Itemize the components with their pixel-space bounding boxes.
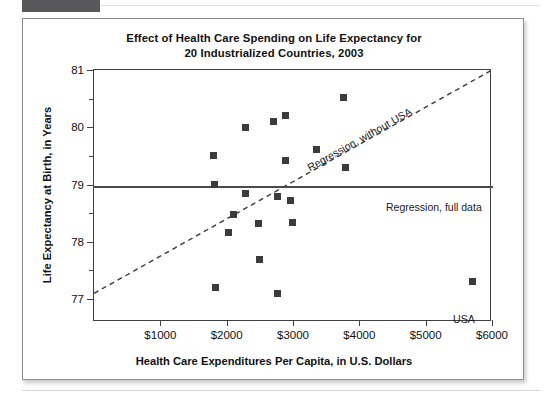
scatter-point bbox=[211, 181, 218, 188]
scatter-point bbox=[242, 124, 249, 131]
scatter-point bbox=[287, 197, 294, 204]
scatter-point bbox=[270, 118, 277, 125]
x-tick-mark bbox=[492, 320, 493, 326]
x-tick-mark bbox=[426, 320, 427, 326]
y-tick-mark bbox=[87, 127, 94, 128]
y-tick-label: 79 bbox=[71, 179, 84, 191]
scatter-point bbox=[282, 157, 289, 164]
regression-full-data-line bbox=[93, 186, 493, 188]
scatter-point bbox=[274, 193, 281, 200]
x-tick-mark bbox=[293, 320, 294, 326]
usa-point-label: USA bbox=[453, 313, 475, 325]
scatter-point bbox=[230, 211, 237, 218]
y-axis-title: Life Expectancy at Birth, in Years bbox=[39, 69, 55, 321]
y-minor-tick-mark bbox=[89, 156, 94, 157]
chart-title-line-1: Effect of Health Care Spending on Life E… bbox=[126, 32, 421, 44]
header-divider-rule bbox=[100, 5, 540, 6]
x-tick-label: $3000 bbox=[277, 329, 309, 341]
scatter-point bbox=[212, 284, 219, 291]
y-tick-label: 77 bbox=[71, 293, 84, 305]
regression-full-data-label: Regression, full data bbox=[386, 201, 482, 213]
scatter-point bbox=[210, 152, 217, 159]
x-tick-label: $2000 bbox=[211, 329, 243, 341]
x-tick-mark bbox=[160, 320, 161, 326]
header-accent-bar bbox=[22, 0, 100, 12]
y-minor-tick-mark bbox=[89, 270, 94, 271]
y-tick-label: 81 bbox=[71, 64, 84, 76]
x-tick-mark bbox=[227, 320, 228, 326]
scatter-point bbox=[469, 278, 476, 285]
chart-title: Effect of Health Care Spending on Life E… bbox=[23, 31, 525, 61]
scatter-point bbox=[256, 256, 263, 263]
scatter-point bbox=[274, 290, 281, 297]
scatter-point bbox=[313, 146, 320, 153]
y-tick-mark bbox=[87, 185, 94, 186]
plot-inner: Regression, full data Regression, withou… bbox=[94, 70, 490, 320]
scatter-point bbox=[225, 229, 232, 236]
chart-title-line-2: 20 Industrialized Countries, 2003 bbox=[23, 46, 525, 61]
scatter-point bbox=[342, 164, 349, 171]
scatter-point bbox=[255, 220, 262, 227]
x-tick-label: $1000 bbox=[144, 329, 176, 341]
x-tick-label: $6000 bbox=[476, 329, 508, 341]
scatter-point bbox=[282, 112, 289, 119]
y-tick-label: 80 bbox=[71, 121, 84, 133]
y-axis-title-text: Life Expectancy at Birth, in Years bbox=[41, 107, 53, 283]
y-tick-mark bbox=[87, 242, 94, 243]
y-minor-tick-mark bbox=[89, 213, 94, 214]
x-axis-title: Health Care Expenditures Per Capita, in … bbox=[23, 355, 525, 367]
y-minor-tick-mark bbox=[89, 99, 94, 100]
scatter-point bbox=[340, 94, 347, 101]
x-tick-mark bbox=[359, 320, 360, 326]
y-tick-mark bbox=[87, 299, 94, 300]
footer-divider-rule bbox=[22, 390, 540, 391]
scatter-point bbox=[289, 219, 296, 226]
figure-card: Effect of Health Care Spending on Life E… bbox=[22, 18, 524, 380]
x-tick-label: $4000 bbox=[343, 329, 375, 341]
x-tick-label: $5000 bbox=[410, 329, 442, 341]
scatter-point bbox=[242, 190, 249, 197]
plot-area: Regression, full data Regression, withou… bbox=[93, 69, 491, 321]
y-tick-label: 78 bbox=[71, 236, 84, 248]
y-tick-mark bbox=[87, 70, 94, 71]
